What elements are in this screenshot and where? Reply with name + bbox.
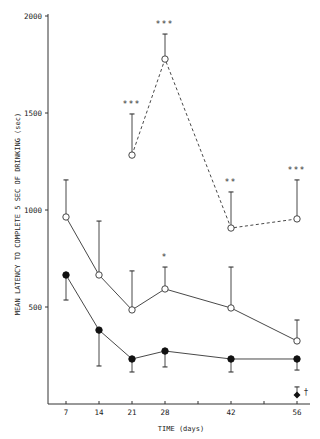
x-axis-title: TIME (days) xyxy=(158,425,204,433)
open-circle-marker xyxy=(162,56,168,62)
series-line xyxy=(66,217,297,341)
y-tick-label: 1500 xyxy=(24,109,43,118)
x-tick-label: 21 xyxy=(127,408,136,417)
significance-marker: *** xyxy=(156,20,174,29)
latency-chart: 50010001500200071421284256 ************†… xyxy=(0,0,320,439)
y-tick-label: 1000 xyxy=(24,206,43,215)
filled-diamond-marker xyxy=(294,392,301,399)
series-filled-diamond: † xyxy=(294,387,311,399)
significance-marker: ** xyxy=(225,178,237,187)
filled-circle-marker xyxy=(129,356,135,362)
y-tick-label: 500 xyxy=(28,303,42,312)
filled-circle-marker xyxy=(63,272,69,278)
series-line xyxy=(132,59,297,228)
open-circle-marker xyxy=(129,307,135,313)
x-tick-label: 14 xyxy=(94,408,104,417)
plot-area: ************† xyxy=(63,20,310,399)
filled-circle-marker xyxy=(228,356,234,362)
y-tick-label: 2000 xyxy=(24,12,43,21)
x-tick-label: 7 xyxy=(64,408,69,417)
open-circle-marker xyxy=(228,305,234,311)
filled-circle-marker xyxy=(96,327,102,333)
significance-marker: * xyxy=(162,253,168,262)
series-open-circle-solid: * xyxy=(63,180,300,344)
x-tick-label: 56 xyxy=(292,408,302,417)
x-tick-label: 42 xyxy=(226,408,235,417)
open-circle-marker xyxy=(96,272,102,278)
open-circle-marker xyxy=(228,225,234,231)
open-circle-marker xyxy=(129,152,135,158)
series-open-circle-dashed: *********** xyxy=(123,20,306,231)
filled-circle-marker xyxy=(294,356,300,362)
significance-marker: *** xyxy=(288,166,306,175)
open-circle-marker xyxy=(63,214,69,220)
series-filled-circle-solid xyxy=(63,272,300,372)
filled-circle-marker xyxy=(162,348,168,354)
y-axis-title: MEAN LATENCY TO COMPLETE 5 SEC OF DRINKI… xyxy=(14,113,22,315)
open-circle-marker xyxy=(294,338,300,344)
significance-marker: † xyxy=(304,388,310,397)
open-circle-marker xyxy=(162,286,168,292)
series-line xyxy=(66,275,297,359)
open-circle-marker xyxy=(294,216,300,222)
significance-marker: *** xyxy=(123,100,141,109)
x-tick-label: 28 xyxy=(160,408,170,417)
